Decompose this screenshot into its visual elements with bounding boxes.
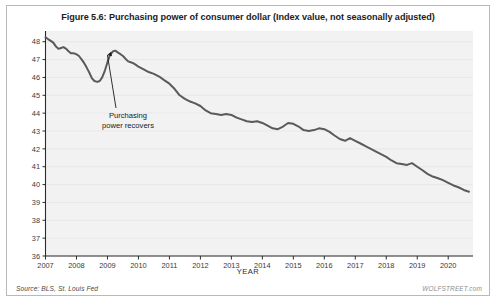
y-tick-label: 48 [32, 37, 40, 46]
x-tick-label: 2018 [378, 261, 394, 270]
x-tick-label: 2007 [37, 261, 53, 270]
x-tick-label: 2012 [192, 261, 208, 270]
x-tick-label: 2017 [347, 261, 363, 270]
y-tick-label: 38 [32, 216, 40, 225]
plot-background [46, 31, 474, 256]
x-axis-title: YEAR [237, 267, 259, 276]
watermark: WOLFSTREET.com [422, 285, 482, 292]
y-tick-label: 42 [32, 145, 40, 154]
x-tick-label: 2009 [99, 261, 115, 270]
x-tick-label: 2010 [130, 261, 146, 270]
y-tick-label: 39 [32, 198, 40, 207]
y-tick-label: 45 [32, 91, 40, 100]
y-tick-label: 40 [32, 180, 40, 189]
y-tick-label: 46 [32, 73, 40, 82]
y-axis-ticks: 36373839404142434445464748 [32, 37, 46, 260]
figure-container: Figure 5.6: Purchasing power of consumer… [0, 0, 496, 301]
x-tick-label: 2020 [440, 261, 456, 270]
x-tick-label: 2015 [285, 261, 301, 270]
chart-plot-area: 36373839404142434445464748 2007200820092… [0, 0, 496, 301]
x-tick-label: 2011 [161, 261, 177, 270]
annotation-line-1: Purchasing [109, 111, 147, 120]
y-tick-label: 36 [32, 252, 40, 261]
y-tick-label: 41 [32, 162, 40, 171]
y-tick-label: 37 [32, 234, 40, 243]
y-tick-label: 47 [32, 55, 40, 64]
y-tick-label: 43 [32, 127, 40, 136]
chart-svg: 36373839404142434445464748 2007200820092… [0, 0, 496, 301]
x-tick-label: 2016 [316, 261, 332, 270]
x-tick-label: 2008 [68, 261, 84, 270]
source-note: Source: BLS, St. Louis Fed [16, 285, 98, 292]
x-tick-label: 2019 [409, 261, 425, 270]
annotation-line-2: power recovers [102, 121, 154, 130]
y-tick-label: 44 [32, 109, 40, 118]
